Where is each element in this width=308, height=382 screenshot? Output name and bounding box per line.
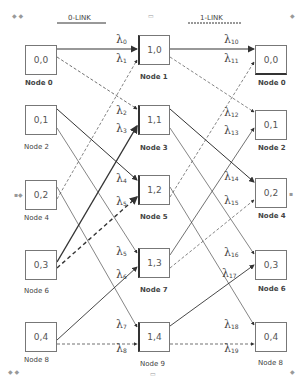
lambda-label: λ18 (224, 318, 239, 331)
lambda-label: λ5 (116, 195, 127, 208)
node-label: Node 4 (24, 214, 49, 222)
node-label: Node 7 (140, 286, 168, 294)
node-box-right-1[interactable]: 0,1 (255, 110, 287, 140)
lambda-label: λ13 (224, 124, 239, 137)
node-label: Node 3 (140, 144, 168, 152)
node-label: Node 4 (258, 212, 286, 220)
lambda-label: λ11 (224, 52, 239, 65)
lambda-label: λ16 (224, 246, 239, 259)
lambda-label: λ5 (116, 245, 127, 258)
lambda-label: λ6 (116, 268, 127, 281)
node-box-left-2[interactable]: 0,2 (25, 180, 57, 210)
node-box-middle-4[interactable]: 1,4 (138, 322, 170, 352)
node-box-left-1[interactable]: 0,1 (25, 105, 57, 135)
corner-marker: ▭ (150, 370, 156, 377)
corner-marker: ◆ ◆ (12, 12, 23, 19)
corner-marker: ◆ (290, 12, 295, 19)
lambda-label: λ17 (222, 267, 237, 280)
lambda-label: λ10 (224, 33, 239, 46)
lambda-label: λ1 (116, 52, 127, 65)
node-box-middle-3[interactable]: 1,3 (138, 248, 170, 278)
edge-marker: ▪◆ (14, 191, 23, 198)
node-label: Node 6 (258, 285, 286, 293)
corner-marker: ◆ ◆ (8, 368, 19, 375)
lambda-label: λ15 (224, 194, 239, 207)
node-box-middle-1[interactable]: 1,1 (138, 105, 170, 135)
lambda-label: λ0 (116, 33, 127, 46)
lambda-label: λ3 (116, 122, 127, 135)
node-box-right-3[interactable]: 0,3 (255, 250, 287, 280)
lambda-label: λ19 (224, 342, 239, 355)
lambda-label: λ12 (224, 106, 239, 119)
node-box-middle-2[interactable]: 1,2 (138, 175, 170, 205)
node-box-left-3[interactable]: 0,3 (25, 250, 57, 280)
corner-marker: ◆ (290, 368, 295, 375)
corner-marker: ▭ (148, 12, 154, 19)
edge-marker: ▪ (289, 190, 293, 197)
right-header: 1-LINK (200, 14, 223, 22)
node-box-left-0[interactable]: 0,0 (25, 45, 57, 75)
node-label: Node 8 (258, 359, 283, 367)
stage2-edges (170, 49, 254, 344)
left-header: 0-LINK (68, 14, 91, 22)
lambda-label: λ14 (224, 170, 239, 183)
node-label: Node 2 (24, 143, 49, 151)
node-label: Node 6 (24, 287, 49, 295)
node-label: Node 0 (258, 79, 286, 87)
node-label: Node 8 (24, 356, 49, 364)
node-label: Node 2 (258, 144, 286, 152)
node-box-right-2[interactable]: 0,2 (255, 178, 287, 208)
lambda-label: λ4 (116, 172, 127, 185)
node-label: Node 0 (25, 79, 53, 87)
node-label: Node 1 (140, 73, 168, 81)
lambda-label: λ2 (116, 104, 127, 117)
node-label: Node 5 (140, 213, 168, 221)
node-label: Node 9 (140, 360, 165, 368)
node-box-middle-0[interactable]: 1,0 (138, 35, 170, 65)
node-box-right-4[interactable]: 0,4 (255, 322, 287, 352)
lambda-label: λ7 (116, 318, 127, 331)
lambda-label: λ8 (116, 342, 127, 355)
node-box-right-0[interactable]: 0,0 (255, 45, 287, 75)
node-box-left-4[interactable]: 0,4 (25, 322, 57, 352)
